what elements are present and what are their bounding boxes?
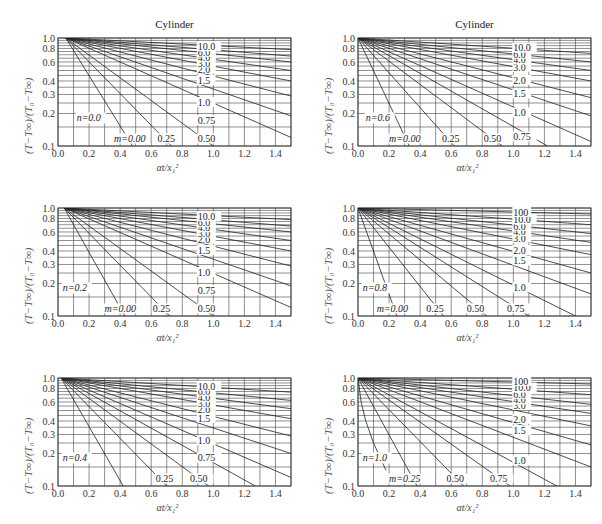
svg-text:0.50: 0.50 — [198, 133, 216, 144]
plot-area: 0.00.20.40.60.81.01.21.40.10.20.30.40.60… — [300, 0, 600, 170]
curve-m-0_00 — [358, 38, 409, 146]
svg-text:100: 100 — [513, 207, 528, 218]
svg-text:1.2: 1.2 — [238, 488, 251, 499]
svg-text:1.0: 1.0 — [507, 148, 520, 159]
svg-text:m=0.25: m=0.25 — [389, 473, 420, 484]
curve-m-10_0 — [66, 38, 291, 50]
svg-text:m=0.00: m=0.00 — [105, 303, 136, 314]
svg-text:0.8: 0.8 — [43, 383, 56, 394]
svg-text:0.4: 0.4 — [114, 148, 127, 159]
curve-m-0_25 — [66, 38, 172, 146]
curve-m-0_25 — [64, 208, 170, 316]
svg-text:0.75: 0.75 — [198, 285, 216, 296]
svg-text:0.2: 0.2 — [383, 148, 396, 159]
svg-text:0.75: 0.75 — [507, 303, 525, 314]
chart-panel-n-0_8: (T−T∞)/(T₀−T∞)αt/x₁²0.00.20.40.60.81.01.… — [300, 170, 600, 340]
svg-text:0.6: 0.6 — [145, 318, 158, 329]
svg-text:m=0.00: m=0.00 — [389, 133, 420, 144]
chart-panel-n-1_0: (T−T∞)/(T₀−T∞)αt/x₁²0.00.20.40.60.81.01.… — [300, 340, 600, 510]
svg-text:1.5: 1.5 — [513, 425, 526, 436]
curve-m-3_0 — [358, 38, 591, 81]
curve-m-2_0 — [358, 378, 591, 445]
svg-text:m=0.00: m=0.00 — [114, 133, 145, 144]
chart-panel-n-0_4: (T−T∞)/(T₀−T∞)αt/x₁²0.00.20.40.60.81.01.… — [0, 340, 300, 510]
svg-text:1.5: 1.5 — [198, 75, 211, 86]
svg-text:n=0.8: n=0.8 — [363, 282, 387, 293]
svg-text:0.4: 0.4 — [343, 416, 356, 427]
svg-text:1.0: 1.0 — [198, 435, 211, 446]
svg-text:0.4: 0.4 — [343, 76, 356, 87]
curve-m-2_0 — [64, 208, 291, 251]
svg-text:0.4: 0.4 — [343, 246, 356, 257]
svg-text:0.6: 0.6 — [43, 397, 56, 408]
svg-text:0.2: 0.2 — [43, 278, 56, 289]
curve-m-10_0 — [64, 208, 291, 220]
chart-panel-n-0_6: Cylinder(T−T∞)/(T₀−T∞)αt/x₁²0.00.20.40.6… — [300, 0, 600, 170]
svg-text:1.0: 1.0 — [198, 267, 211, 278]
svg-text:1.5: 1.5 — [198, 245, 211, 256]
svg-text:0.50: 0.50 — [447, 473, 465, 484]
svg-text:0.50: 0.50 — [198, 303, 216, 314]
svg-text:0.4: 0.4 — [114, 488, 127, 499]
svg-text:0.4: 0.4 — [414, 318, 427, 329]
svg-text:10.0: 10.0 — [513, 42, 531, 53]
chart-panel-n-0_2: (T−T∞)/(T₀−T∞)αt/x₁²0.00.20.40.60.81.01.… — [0, 170, 300, 340]
curve-m-1_0 — [358, 38, 591, 142]
svg-text:1.0: 1.0 — [507, 318, 520, 329]
svg-text:n=0.4: n=0.4 — [63, 452, 87, 463]
svg-text:1.4: 1.4 — [569, 488, 582, 499]
svg-text:1.0: 1.0 — [43, 33, 56, 44]
svg-text:0.1: 0.1 — [343, 141, 356, 152]
svg-text:0.3: 0.3 — [43, 429, 56, 440]
svg-text:0.8: 0.8 — [343, 213, 356, 224]
svg-text:1.0: 1.0 — [513, 107, 526, 118]
svg-text:0.8: 0.8 — [43, 43, 56, 54]
svg-text:m=0.00: m=0.00 — [377, 303, 408, 314]
curve-m-0_50 — [358, 38, 502, 146]
svg-text:0.3: 0.3 — [343, 429, 356, 440]
svg-text:0.2: 0.2 — [383, 318, 396, 329]
svg-text:0.6: 0.6 — [445, 148, 458, 159]
svg-text:1.5: 1.5 — [513, 255, 526, 266]
svg-text:0.50: 0.50 — [190, 473, 208, 484]
plot-area: 0.00.20.40.60.81.01.21.40.10.20.30.40.60… — [300, 340, 600, 510]
svg-text:1.2: 1.2 — [238, 318, 251, 329]
svg-text:0.8: 0.8 — [176, 148, 189, 159]
svg-text:10.0: 10.0 — [198, 41, 216, 52]
svg-text:0.75: 0.75 — [490, 473, 508, 484]
svg-text:1.0: 1.0 — [343, 33, 356, 44]
svg-text:1.2: 1.2 — [538, 488, 551, 499]
svg-text:0.2: 0.2 — [343, 278, 356, 289]
svg-text:1.4: 1.4 — [269, 148, 282, 159]
svg-text:0.8: 0.8 — [43, 213, 56, 224]
svg-text:0.25: 0.25 — [153, 303, 171, 314]
svg-text:0.25: 0.25 — [426, 303, 444, 314]
svg-text:1.0: 1.0 — [207, 318, 220, 329]
svg-text:0.2: 0.2 — [83, 318, 96, 329]
svg-text:0.6: 0.6 — [343, 397, 356, 408]
svg-text:0.25: 0.25 — [442, 133, 460, 144]
svg-text:0.1: 0.1 — [43, 311, 56, 322]
svg-text:2.0: 2.0 — [513, 414, 526, 425]
svg-text:0.75: 0.75 — [513, 131, 531, 142]
svg-text:0.2: 0.2 — [43, 108, 56, 119]
curve-m-0_00 — [66, 38, 133, 146]
curve-m-2_0 — [66, 38, 291, 81]
plot-area: 0.00.20.40.60.81.01.21.40.10.20.30.40.60… — [300, 170, 600, 340]
svg-text:0.3: 0.3 — [43, 89, 56, 100]
curve-m-0_50 — [358, 378, 464, 486]
svg-text:0.4: 0.4 — [43, 416, 56, 427]
svg-text:0.2: 0.2 — [383, 488, 396, 499]
svg-text:0.1: 0.1 — [343, 481, 356, 492]
svg-text:1.0: 1.0 — [43, 203, 56, 214]
svg-text:0.6: 0.6 — [145, 488, 158, 499]
svg-text:0.6: 0.6 — [445, 318, 458, 329]
svg-text:0.6: 0.6 — [343, 57, 356, 68]
svg-text:n=0.2: n=0.2 — [63, 282, 87, 293]
svg-text:0.25: 0.25 — [157, 133, 175, 144]
svg-text:0.1: 0.1 — [343, 311, 356, 322]
curve-m-0_50 — [66, 38, 214, 146]
svg-text:10.0: 10.0 — [198, 211, 216, 222]
svg-text:0.1: 0.1 — [43, 141, 56, 152]
svg-text:0.3: 0.3 — [343, 259, 356, 270]
